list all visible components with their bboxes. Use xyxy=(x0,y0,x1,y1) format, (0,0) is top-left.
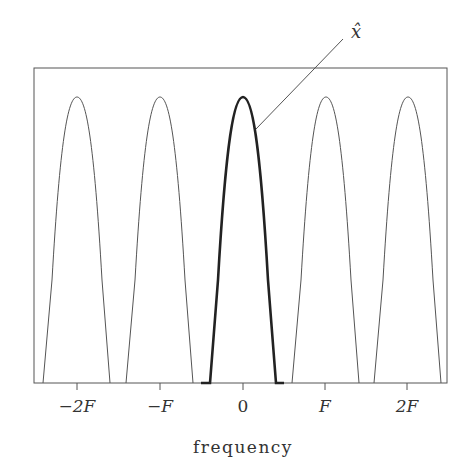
replica-plus-F xyxy=(292,97,359,383)
tick-label-minus-2F: −2F xyxy=(59,396,97,416)
x-ticks xyxy=(77,383,407,390)
tick-label-zero: 0 xyxy=(238,396,249,416)
baseband-spectrum-curve xyxy=(201,97,284,383)
tick-label-F: F xyxy=(318,396,332,416)
tick-label-2F: 2F xyxy=(395,396,420,416)
annotation-leader-line xyxy=(256,39,343,129)
replica-plus-2F xyxy=(374,97,441,383)
annotation-x-hat: x̂ xyxy=(351,21,361,42)
replica-minus-F xyxy=(126,97,193,383)
replica-minus-2F xyxy=(43,97,110,383)
replica-curves xyxy=(43,97,441,383)
spectrum-diagram: x̂ −2F −F 0 F 2F frequency xyxy=(0,0,474,476)
x-axis-label: frequency xyxy=(193,437,293,457)
tick-label-minus-F: −F xyxy=(147,396,174,416)
plot-frame xyxy=(34,68,447,383)
